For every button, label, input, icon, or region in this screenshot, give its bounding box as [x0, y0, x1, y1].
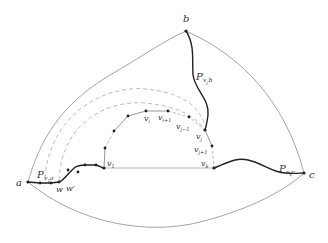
vertex-p3: [77, 171, 80, 174]
svg-text:j+1: j+1: [198, 149, 208, 156]
vertex-vi: [145, 110, 148, 113]
label-vi1: v i+1: [158, 113, 171, 123]
svg-text:j−1: j−1: [180, 126, 190, 133]
vertex-p1: [39, 182, 42, 185]
vertex-vj-1: [188, 116, 191, 119]
vertex-v1: [102, 166, 105, 169]
svg-text:1: 1: [112, 163, 115, 169]
edge-a-c: [28, 173, 304, 227]
vertex-vk: [212, 166, 215, 169]
vertex-b: [184, 29, 187, 32]
vertex-p5: [95, 164, 98, 167]
svg-text:P: P: [278, 163, 286, 174]
vertex-chain-2: [113, 130, 116, 133]
label-vi: v i: [144, 114, 151, 124]
vertex-chain-1: [104, 147, 107, 150]
label-c: c: [309, 169, 315, 180]
label-w: w: [56, 185, 63, 194]
svg-text:i+1: i+1: [163, 117, 172, 123]
vertex-chain-3: [127, 115, 130, 118]
label-vj-1: v j−1: [176, 122, 189, 133]
vertices: [26, 29, 305, 184]
label-a: a: [16, 177, 22, 188]
chain-vj-vj1: [205, 130, 212, 146]
vertex-p4: [84, 164, 87, 167]
label-P-vk-c: P v k c: [278, 163, 296, 177]
label-b: b: [183, 13, 189, 24]
svg-text:k: k: [206, 163, 209, 169]
label-P-v1-a: P v 1 a: [36, 169, 54, 183]
label-P-vj-b: P v j b: [195, 71, 213, 85]
vertex-w-prime: [67, 169, 70, 172]
dashed-arc-outer: [45, 89, 206, 178]
vertex-a: [26, 180, 29, 183]
label-v1: v 1: [107, 159, 115, 169]
vertex-w: [58, 181, 61, 184]
label-vk: v k: [201, 159, 209, 169]
vertex-vi1: [167, 110, 170, 113]
label-vj: v j: [196, 132, 203, 143]
vertex-vj: [203, 128, 206, 131]
svg-text:a: a: [50, 174, 54, 181]
svg-text:i: i: [149, 118, 151, 124]
svg-text:j: j: [200, 136, 203, 143]
vertex-c: [302, 171, 305, 174]
dashed-v1-chain: [105, 131, 114, 148]
planar-graph-diagram: a b c P v 1 a P v j b P v k c w w′ v 1 v…: [0, 0, 328, 243]
svg-text:P: P: [195, 71, 203, 82]
label-w-prime: w′: [66, 184, 75, 193]
svg-text:b: b: [209, 76, 213, 83]
vertex-vj1: [211, 145, 214, 148]
dashed-vj1-vk: [212, 146, 214, 168]
svg-text:P: P: [36, 169, 44, 180]
label-vj1: v j+1: [194, 145, 207, 156]
